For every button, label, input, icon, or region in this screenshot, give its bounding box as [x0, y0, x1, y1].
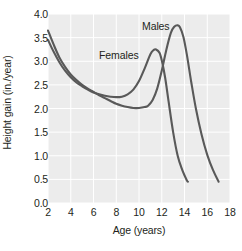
x-tick-label: 14 — [173, 206, 197, 218]
x-axis-ticks: 24681012141618 — [0, 206, 242, 220]
growth-rate-chart: 0.00.51.01.52.02.53.03.54.0 Height gain … — [0, 0, 242, 251]
x-tick-label: 18 — [218, 206, 242, 218]
x-tick-label: 2 — [36, 206, 60, 218]
y-tick-label: 1.5 — [14, 127, 48, 138]
x-tick-label: 4 — [59, 206, 83, 218]
y-tick-label: 4.0 — [14, 9, 48, 20]
y-tick-label: 2.0 — [14, 103, 48, 114]
y-axis-title: Height gain (in./year) — [0, 0, 14, 205]
x-tick-label: 6 — [82, 206, 106, 218]
x-axis-title: Age (years) — [48, 224, 230, 237]
y-tick-label: 0.5 — [14, 174, 48, 185]
y-tick-label: 3.5 — [14, 32, 48, 43]
x-tick-label: 12 — [150, 206, 174, 218]
plot-area — [48, 14, 230, 203]
y-tick-label: 3.0 — [14, 56, 48, 67]
x-tick-label: 16 — [195, 206, 219, 218]
series-label-males: Males — [142, 20, 170, 32]
y-tick-label: 2.5 — [14, 79, 48, 90]
series-label-females: Females — [99, 49, 139, 61]
y-tick-label: 1.0 — [14, 150, 48, 161]
x-tick-label: 8 — [104, 206, 128, 218]
x-tick-label: 10 — [127, 206, 151, 218]
